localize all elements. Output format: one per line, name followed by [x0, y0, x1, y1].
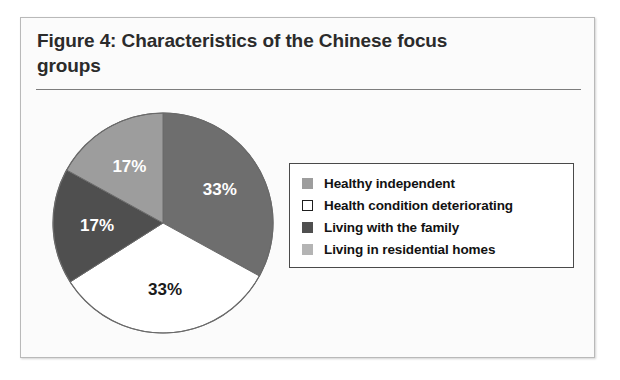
pie-data-label: 17%: [112, 157, 146, 176]
legend-item[interactable]: Health condition deteriorating: [302, 195, 573, 216]
legend-swatch-icon: [302, 222, 313, 233]
legend-item-label: Healthy independent: [324, 176, 455, 191]
pie-data-label: 33%: [148, 280, 182, 299]
legend-item-label: Health condition deteriorating: [324, 198, 513, 213]
figure-panel: Figure 4: Characteristics of the Chinese…: [20, 17, 595, 358]
legend-item[interactable]: Healthy independent: [302, 173, 573, 194]
chart-legend: Healthy independent Health condition det…: [289, 163, 574, 268]
pie-data-label: 17%: [80, 216, 114, 235]
legend-item[interactable]: Living with the family: [302, 217, 573, 238]
legend-swatch-icon: [302, 200, 313, 211]
pie-chart-svg: 33%33%17%17%: [43, 103, 283, 343]
pie-data-label: 33%: [203, 180, 237, 199]
legend-item-label: Living with the family: [324, 220, 459, 235]
legend-item-label: Living in residential homes: [324, 242, 495, 257]
legend-item[interactable]: Living in residential homes: [302, 239, 573, 260]
legend-swatch-icon: [302, 178, 313, 189]
legend-swatch-icon: [302, 244, 313, 255]
